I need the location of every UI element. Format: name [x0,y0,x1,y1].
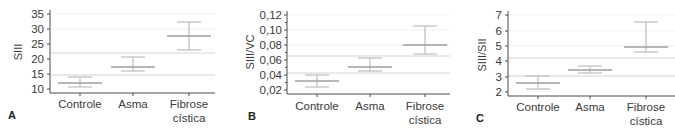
y-tick-label: 0,12 [260,9,282,21]
chart-a-svg: SIII 35 30 25 20 15 10 [0,0,225,128]
y-axis-label: SIII/SII [476,38,488,71]
x-category-labels: Controle Asma Fibrose cística [516,101,665,127]
y-axis-label: SIII/VC [244,35,256,70]
grid-lines [508,15,675,46]
x-category-labels: Controle Asma Fibrose cística [58,98,208,124]
panel-letter: A [8,109,16,121]
y-tick-label: 3 [496,71,502,83]
y-tick-label: 0,04 [260,69,283,81]
y-tick-label: 0,06 [260,54,282,66]
y-tick-label: 20 [31,53,44,65]
y-tick-label: 35 [31,8,44,20]
panel-letter: B [248,110,256,122]
x-tick-label: Controle [516,101,559,113]
y-tick-label: 10 [31,83,44,95]
x-tick-label: Fibrose [170,98,208,110]
errorbar-controle [295,75,339,87]
y-tick-labels: 0,12 0,10 0,08 0,06 0,04 0,02 [260,9,283,96]
y-axis-label: SIII [12,44,24,61]
y-tick-label: 7 [496,9,502,21]
y-tick-labels: 35 30 25 20 15 10 [31,8,44,95]
y-tick-label: 5 [496,40,502,52]
y-tick-label: 0,10 [260,24,282,36]
y-tick-label: 25 [31,38,44,50]
y-tick-label: 0,08 [260,39,282,51]
x-tick-label: cística [409,114,442,126]
chart-c-svg: SIII/SII 7 6 5 4 3 2 [450,0,675,128]
y-tick-label: 15 [31,68,44,80]
errorbar-asma [568,66,612,73]
x-tick-label: Asma [118,98,148,110]
y-tick-label: 6 [496,25,502,37]
y-tick-label: 0,02 [260,84,282,96]
x-tick-label: cística [173,112,206,124]
axes [505,11,675,99]
x-tick-label: cística [630,115,663,127]
errorbar-fibrose-cistica [167,22,211,50]
errorbar-controle [58,77,102,87]
x-tick-label: Asma [575,101,605,113]
chart-b-svg: SIII/VC 0,12 0,10 0,08 0,06 0,04 0,02 [225,0,450,128]
chart-panel-b: SIII/VC 0,12 0,10 0,08 0,06 0,04 0,02 [225,0,450,128]
y-tick-label: 30 [31,23,44,35]
panel-letter: C [476,112,484,124]
errorbar-fibrose-cistica [624,22,668,52]
x-tick-label: Controle [295,100,338,112]
errorbar-asma [348,58,392,71]
x-tick-label: Asma [355,100,385,112]
y-tick-label: 4 [496,55,503,67]
errorbar-asma [111,57,155,71]
chart-panel-a: SIII 35 30 25 20 15 10 [0,0,225,128]
y-tick-labels: 7 6 5 4 3 2 [496,9,503,98]
errorbar-controle [516,76,560,89]
x-category-labels: Controle Asma Fibrose cística [295,100,444,126]
x-tick-label: Fibrose [406,100,444,112]
chart-panel-c: SIII/SII 7 6 5 4 3 2 [450,0,675,128]
y-tick-label: 2 [496,86,502,98]
x-tick-label: Fibrose [627,101,665,113]
x-tick-label: Controle [58,98,101,110]
